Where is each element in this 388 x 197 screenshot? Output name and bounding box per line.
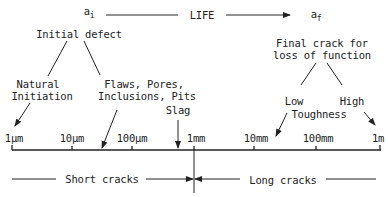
natural-initiation-line1: Natural [17, 78, 60, 90]
tick-1mm: 1mm [187, 132, 205, 144]
a-initial-label: ai [84, 5, 95, 19]
high-label: High [340, 95, 365, 107]
life-label: LIFE [190, 9, 215, 21]
natural-initiation-line2: Initiation [11, 90, 72, 102]
tick-1um: 1μm [5, 132, 23, 144]
flaws-line2: Inclusions, Pits [98, 90, 196, 102]
low-label: Low [285, 95, 303, 107]
tick-100mm: 100mm [303, 132, 334, 144]
slag-label: Slag [166, 104, 191, 116]
tick-100um: 100μm [117, 132, 148, 144]
tick-1m: 1m [372, 132, 384, 144]
final-crack-line2: loss of function [273, 49, 371, 61]
tick-10mm: 10mm [244, 132, 269, 144]
a-final-label: af [311, 8, 322, 22]
short-cracks-label: Short cracks [65, 173, 138, 185]
tick-10um: 10μm [60, 132, 85, 144]
final-crack-line1: Final crack for [276, 37, 368, 49]
toughness-label: Toughness [291, 108, 346, 120]
flaws-line1: Flaws, Pores, [104, 78, 184, 90]
long-cracks-label: Long cracks [249, 174, 316, 186]
initial-defect-title: Initial defect [36, 28, 122, 40]
